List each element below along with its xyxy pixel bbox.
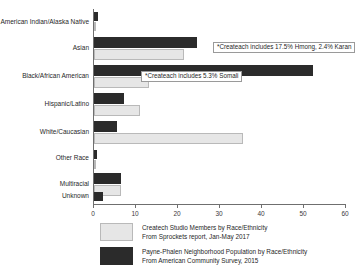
legend-label-payne-phalen-line2: From American Community Survey, 2015 <box>142 256 307 265</box>
chart-legend: Createch Studio Members by Race/Ethnicit… <box>100 222 340 270</box>
x-tick-label-0: 0 <box>91 210 95 217</box>
legend-label-createch-line1: Createch Studio Members by Race/Ethnicit… <box>142 223 267 232</box>
x-tick-0 <box>93 204 94 208</box>
annotation-asian-hmong-karen: *Createach includes 17.5% Hmong, 2.4% Ka… <box>213 42 355 53</box>
x-tick-40 <box>261 204 262 208</box>
bar-acs-american-indian-alaska-native <box>94 12 98 21</box>
bar-group-hispanic-latino: Hispanic/Latino <box>93 93 345 117</box>
bar-createch-hispanic-latino <box>94 105 140 116</box>
x-tick-label-20: 20 <box>173 210 180 217</box>
bar-createch-american-indian-alaska-native <box>94 22 96 31</box>
bar-group-unknown: Unknown <box>93 192 345 204</box>
category-label-multiracial: Multiracial <box>60 181 89 188</box>
legend-label-payne-phalen: Payne-Phalen Neighborhood Population by … <box>142 247 307 265</box>
bar-acs-unknown <box>94 192 103 201</box>
legend-swatch-payne-phalen-icon <box>100 247 133 265</box>
bar-group-white-caucasian: White/Caucasian <box>93 121 345 145</box>
bar-chart: 0 10 20 30 40 50 60 American Indian/Alas… <box>0 0 361 272</box>
category-label-asian: Asian <box>73 45 89 52</box>
category-label-black-african-american: Black/African American <box>22 73 89 80</box>
annotation-black-somali: *Createach includes 5.3% Somali <box>141 71 242 82</box>
legend-item-payne-phalen: Payne-Phalen Neighborhood Population by … <box>100 246 340 268</box>
x-tick-label-50: 50 <box>299 210 306 217</box>
legend-item-createch: Createch Studio Members by Race/Ethnicit… <box>100 222 340 244</box>
bar-createch-other-race <box>94 160 96 169</box>
x-tick-30 <box>219 204 220 208</box>
bar-group-other-race: Other Race <box>93 150 345 171</box>
bar-acs-hispanic-latino <box>94 93 124 104</box>
bar-acs-other-race <box>94 150 97 159</box>
x-tick-label-10: 10 <box>131 210 138 217</box>
bar-createch-asian <box>94 49 184 60</box>
bar-acs-multiracial <box>94 173 121 184</box>
category-label-unknown: Unknown <box>62 193 89 200</box>
x-tick-50 <box>303 204 304 208</box>
legend-swatch-createch-icon <box>100 223 133 241</box>
legend-label-createch: Createch Studio Members by Race/Ethnicit… <box>142 223 267 241</box>
legend-label-createch-line2: From Sprockets report, Jan-May 2017 <box>142 232 267 241</box>
category-label-hispanic-latino: Hispanic/Latino <box>45 101 89 108</box>
category-label-american-indian-alaska-native: American Indian/Alaska Native <box>0 19 89 26</box>
plot-area: 0 10 20 30 40 50 60 American Indian/Alas… <box>93 9 345 204</box>
x-tick-label-30: 30 <box>215 210 222 217</box>
legend-label-payne-phalen-line1: Payne-Phalen Neighborhood Population by … <box>142 247 307 256</box>
category-label-white-caucasian: White/Caucasian <box>40 129 89 136</box>
bar-acs-white-caucasian <box>94 121 117 132</box>
x-tick-label-60: 60 <box>341 210 348 217</box>
bar-group-american-indian-alaska-native: American Indian/Alaska Native <box>93 12 345 33</box>
bar-acs-asian <box>94 37 197 48</box>
x-tick-60 <box>345 204 346 208</box>
x-tick-10 <box>135 204 136 208</box>
x-tick-label-40: 40 <box>257 210 264 217</box>
category-label-other-race: Other Race <box>56 155 89 162</box>
x-tick-20 <box>177 204 178 208</box>
bar-createch-white-caucasian <box>94 133 243 144</box>
